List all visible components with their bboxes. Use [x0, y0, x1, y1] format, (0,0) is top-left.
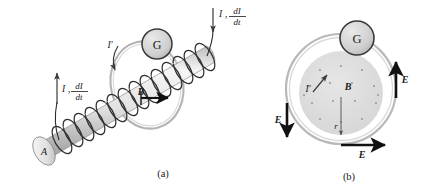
current-rate-num-right: dI — [233, 6, 242, 16]
figure-canvas: B G I' I , dI dt — [0, 0, 433, 189]
caption-b: (b) — [343, 171, 356, 183]
b-label-a: B — [137, 87, 144, 97]
panel-b: B r G I' E E — [274, 21, 409, 183]
b-label-b: B — [344, 81, 352, 92]
current-rate-num-left: dI — [75, 81, 84, 91]
current-comma-left: , — [68, 84, 70, 94]
current-rate-den-left: dt — [75, 92, 83, 102]
current-label-left: I , dI dt — [61, 81, 88, 102]
e-label-bottom: E — [358, 149, 366, 160]
current-symbol-left: I — [61, 84, 66, 94]
current-label-right: I , dI dt — [218, 6, 246, 27]
induced-current-label-a: I' — [106, 40, 113, 50]
panel-a: B G I' I , dI dt — [28, 6, 246, 180]
galvanometer-label-b: G — [352, 32, 361, 46]
current-comma-right: , — [225, 9, 227, 19]
physics-figure: B G I' I , dI dt — [0, 0, 433, 189]
current-symbol-right: I — [218, 9, 223, 19]
caption-a: (a) — [157, 168, 169, 180]
rod-end-label-a: A — [40, 146, 48, 157]
radius-label-b: r — [334, 121, 338, 131]
induced-current-label-b: I' — [304, 84, 311, 94]
current-rate-den-right: dt — [233, 17, 241, 27]
rod-body — [40, 46, 215, 159]
e-label-right: E — [401, 74, 409, 85]
e-label-left: E — [274, 114, 282, 125]
galvanometer-label-a: G — [153, 38, 162, 52]
